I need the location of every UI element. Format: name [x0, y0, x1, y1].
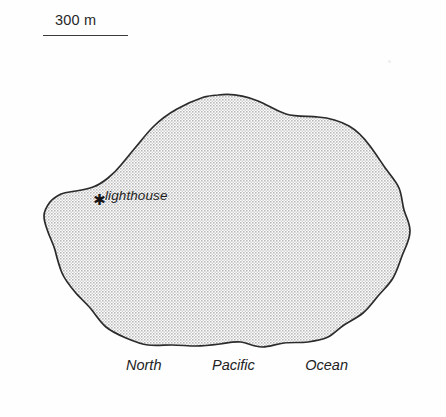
ocean-label-word-pacific: Pacific: [212, 357, 255, 373]
scan-artifact-speck: [388, 60, 391, 63]
ocean-label: North Pacific Ocean: [126, 357, 348, 373]
ocean-label-word-ocean: Ocean: [305, 357, 348, 373]
island-map-canvas: [0, 0, 446, 417]
landmass-group: [44, 94, 410, 347]
lighthouse-label: lighthouse: [105, 188, 168, 203]
map-figure: 300 m ✱ lighthouse North Pacific Ocean: [0, 0, 446, 417]
island-landmass: [44, 94, 410, 347]
ocean-label-word-north: North: [126, 357, 161, 373]
scale-bar-rule: [43, 35, 128, 36]
scale-bar: 300 m: [43, 12, 128, 40]
scale-bar-label: 300 m: [55, 12, 96, 28]
